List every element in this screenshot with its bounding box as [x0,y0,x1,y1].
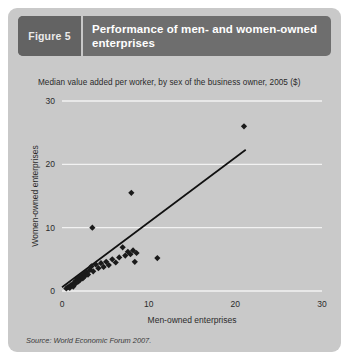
x-axis-tick-label: 0 [60,299,65,309]
y-axis-tick-label: 10 [46,223,56,233]
scatter-point [89,225,95,231]
scatter-point [154,255,160,261]
scatter-point [116,254,122,260]
x-axis-tick-label: 30 [317,299,327,309]
x-axis-title: Men-owned enterprises [148,315,237,325]
scatter-point [132,259,138,265]
x-axis-tick-label: 10 [144,299,154,309]
x-axis-tick-label: 20 [231,299,241,309]
figure-card: Figure 5 Performance of men- and women-o… [8,8,341,352]
scatter-plot: 01020300102030Men-owned enterprisesWomen… [8,8,341,352]
scatter-point [128,190,134,196]
scatter-point [241,123,247,129]
y-axis-tick-label: 20 [46,159,56,169]
y-axis-tick-label: 30 [46,96,56,106]
y-axis-title: Women-owned enterprises [30,145,40,246]
scatter-point [120,244,126,250]
y-axis-tick-label: 0 [50,286,55,296]
source-note: Source: World Economic Forum 2007. [26,336,151,345]
